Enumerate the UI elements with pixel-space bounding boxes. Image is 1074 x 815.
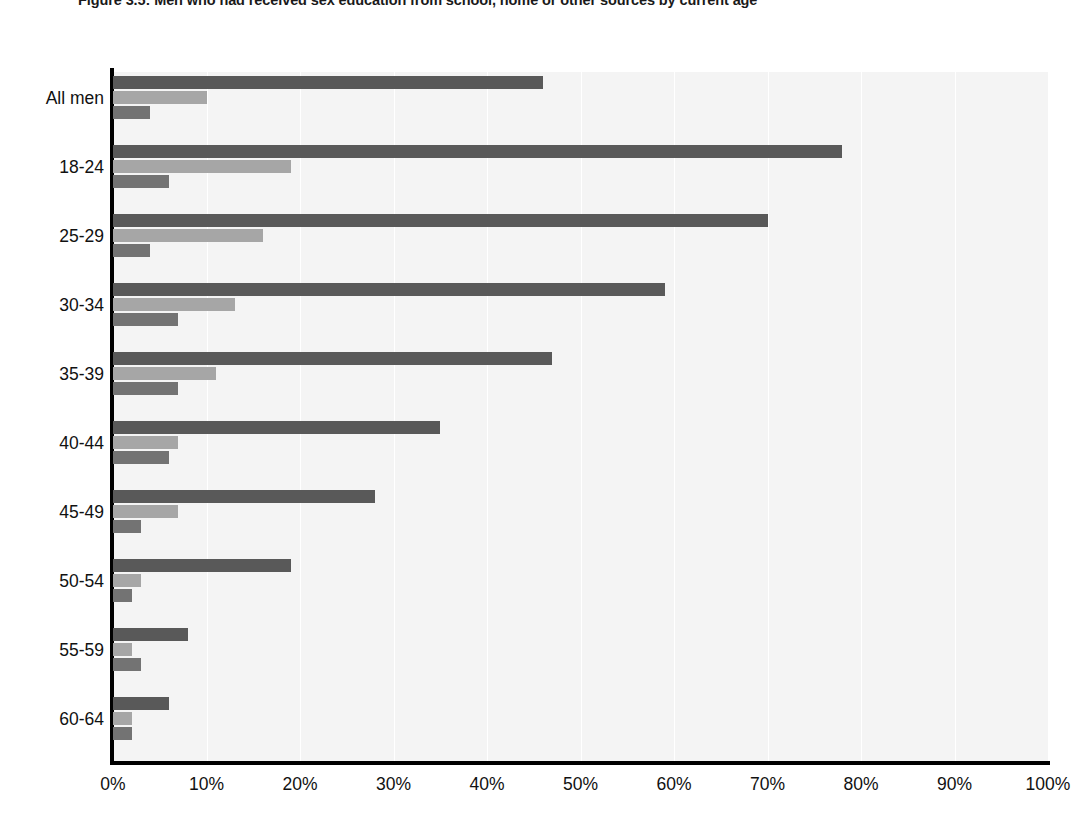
bar: [113, 91, 207, 104]
bar: [113, 76, 543, 89]
bar: [113, 382, 178, 395]
bar-group: [113, 628, 1048, 671]
x-tick-label: 70%: [750, 773, 785, 795]
bar: [113, 589, 132, 602]
bar-group: [113, 76, 1048, 119]
category-label: 40-44: [0, 433, 104, 453]
bar-group: [113, 559, 1048, 602]
bar: [113, 451, 169, 464]
bar: [113, 643, 132, 656]
category-axis-labels: All men18-2425-2930-3435-3940-4445-4950-…: [0, 72, 104, 762]
bar: [113, 244, 150, 257]
category-label: 60-64: [0, 709, 104, 729]
bar: [113, 145, 842, 158]
x-tick-label: 60%: [656, 773, 691, 795]
bar: [113, 697, 169, 710]
bar-group: [113, 490, 1048, 533]
x-tick-label: 100%: [1026, 773, 1071, 795]
bar: [113, 574, 141, 587]
x-tick-label: 50%: [563, 773, 598, 795]
category-label: 18-24: [0, 157, 104, 177]
bar: [113, 352, 552, 365]
bar: [113, 658, 141, 671]
x-tick-label: 40%: [469, 773, 504, 795]
bar: [113, 727, 132, 740]
bar: [113, 559, 291, 572]
figure-title: Figure 3.5: Men who had received sex edu…: [78, 0, 1058, 9]
figure-container: Figure 3.5: Men who had received sex edu…: [0, 0, 1074, 815]
bar: [113, 520, 141, 533]
x-tick-label: 90%: [937, 773, 972, 795]
bar: [113, 505, 178, 518]
category-label: All men: [0, 88, 104, 108]
bar-group: [113, 283, 1048, 326]
category-label: 35-39: [0, 364, 104, 384]
x-tick-label: 30%: [376, 773, 411, 795]
bar-group: [113, 214, 1048, 257]
x-tick-label: 20%: [282, 773, 317, 795]
bar-group: [113, 145, 1048, 188]
bar: [113, 106, 150, 119]
bar-group: [113, 421, 1048, 464]
x-tick-label: 10%: [189, 773, 224, 795]
category-label: 55-59: [0, 640, 104, 660]
gridline: [1048, 72, 1049, 762]
category-label: 50-54: [0, 571, 104, 591]
value-axis-labels: 0%10%20%30%40%50%60%70%80%90%100%: [0, 773, 1074, 803]
bar-group: [113, 697, 1048, 740]
bar: [113, 160, 291, 173]
bar: [113, 175, 169, 188]
bar: [113, 628, 188, 641]
x-tick-label: 0%: [100, 773, 125, 795]
bar: [113, 436, 178, 449]
bar: [113, 229, 263, 242]
bar: [113, 298, 235, 311]
category-label: 30-34: [0, 295, 104, 315]
category-label: 25-29: [0, 226, 104, 246]
bar: [113, 712, 132, 725]
bar-group: [113, 352, 1048, 395]
bars-layer: [113, 72, 1048, 762]
bar: [113, 283, 665, 296]
bar: [113, 490, 375, 503]
bar: [113, 313, 178, 326]
bar: [113, 421, 440, 434]
x-tick-label: 80%: [843, 773, 878, 795]
bar: [113, 367, 216, 380]
bar: [113, 214, 768, 227]
category-label: 45-49: [0, 502, 104, 522]
